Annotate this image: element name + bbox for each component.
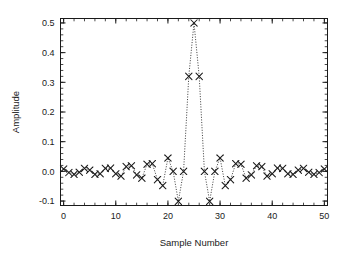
data-markers [60, 20, 327, 205]
data-point-marker [154, 176, 160, 182]
data-point-marker [300, 165, 306, 171]
data-point-marker [238, 161, 244, 167]
y-tick-label: 0.4 [42, 48, 55, 58]
x-tick-label: 40 [267, 211, 277, 221]
x-axis-title: Sample Number [160, 237, 229, 248]
data-point-marker [217, 155, 223, 161]
data-point-marker [71, 171, 77, 177]
data-point-marker [81, 165, 87, 171]
y-axis-title: Amplitude [10, 91, 21, 133]
data-point-marker [295, 167, 301, 173]
y-tick-label: 0.0 [42, 167, 55, 177]
data-point-marker [222, 182, 228, 188]
plot-canvas: 01020304050-0.10.00.10.20.30.40.5Sample … [0, 0, 350, 260]
data-line [64, 23, 325, 201]
y-tick-label: 0.5 [42, 18, 55, 28]
data-point-marker [259, 163, 265, 169]
data-point-marker [290, 171, 296, 177]
data-point-marker [212, 168, 218, 174]
data-point-marker [160, 182, 166, 188]
x-tick-label: 30 [215, 211, 225, 221]
data-point-marker [149, 160, 155, 166]
y-tick-label: 0.3 [42, 78, 55, 88]
chart-figure: 01020304050-0.10.00.10.20.30.40.5Sample … [0, 0, 350, 260]
x-tick-label: 0 [61, 211, 66, 221]
y-tick-label: 0.1 [42, 137, 55, 147]
data-point-marker [306, 169, 312, 175]
data-point-marker [165, 155, 171, 161]
x-tick-label: 20 [163, 211, 173, 221]
y-tick-label: -0.1 [39, 196, 55, 206]
plot-frame [61, 19, 328, 206]
data-point-marker [311, 171, 317, 177]
data-point-marker [76, 169, 82, 175]
data-point-marker [87, 167, 93, 173]
data-point-marker [227, 176, 233, 182]
x-tick-label: 10 [111, 211, 121, 221]
x-tick-label: 50 [319, 211, 329, 221]
y-tick-label: 0.2 [42, 107, 55, 117]
data-point-marker [170, 168, 176, 174]
data-point-marker [191, 20, 197, 26]
